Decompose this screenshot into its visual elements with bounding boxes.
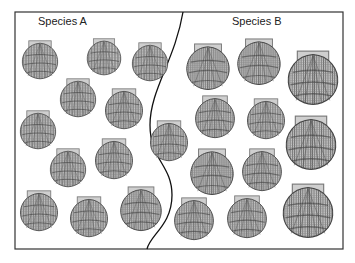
species-a-shell-icon — [20, 111, 55, 149]
species-b-shell-icon — [288, 51, 337, 104]
species-b-shell-icon — [238, 39, 280, 85]
species-a-shell-icon — [50, 149, 85, 187]
species-b-shell-icon — [283, 184, 332, 237]
species-b-shells — [150, 39, 337, 240]
species-b-shell-icon — [187, 44, 229, 90]
species-b-shell-icon — [175, 198, 214, 240]
species-a-shell-icon — [95, 139, 132, 179]
species-a-shell-icon — [22, 41, 57, 79]
species-a-shell-icon — [87, 39, 121, 75]
species-a-shell-icon — [20, 191, 57, 231]
species-b-shell-icon — [191, 149, 233, 195]
diagram-canvas — [0, 0, 355, 263]
species-b-shell-icon — [286, 116, 335, 169]
species-a-shells — [20, 39, 167, 237]
species-a-shell-icon — [121, 187, 162, 231]
species-b-shell-icon — [196, 96, 235, 138]
species-b-shell-icon — [247, 99, 284, 139]
species-a-shell-icon — [105, 89, 142, 129]
species-a-shell-icon — [60, 79, 95, 117]
species-b-label: Species B — [232, 15, 282, 27]
species-b-shell-icon — [150, 121, 187, 161]
species-b-shell-icon — [243, 149, 282, 191]
species-a-label: Species A — [38, 15, 87, 27]
species-b-shell-icon — [228, 196, 267, 238]
species-a-shell-icon — [70, 197, 107, 237]
species-a-shell-icon — [132, 43, 167, 81]
